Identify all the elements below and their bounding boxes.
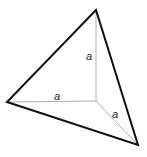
edge-label-horizontal: a — [54, 90, 60, 102]
edge-label-diagonal: a — [112, 108, 118, 120]
inner-edges — [7, 10, 138, 145]
edge-center-left — [7, 101, 96, 102]
tetrahedron-diagram: a a a — [0, 0, 147, 157]
edge-label-vertical: a — [86, 50, 92, 62]
